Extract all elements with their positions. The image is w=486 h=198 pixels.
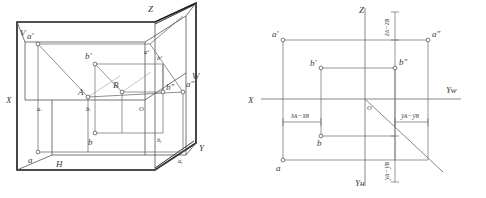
marker-A: [86, 95, 90, 99]
label-a-front: a': [272, 29, 280, 39]
label-b-top: b: [317, 138, 322, 148]
marker-a-top: [36, 150, 40, 154]
dimension-dy-bottom: yᴀ−yʙ: [382, 161, 391, 181]
label-axis-z: Z: [359, 5, 365, 15]
vertex-markers: [36, 42, 185, 154]
marker-a-front: [281, 38, 285, 42]
label-axis-x: X: [5, 95, 12, 105]
pictorial-projection-diagram: V H W X Y Z O a' a a″ aᶻ aₓ aᵧ A b' b b″…: [0, 0, 243, 198]
A-to-a-side: [88, 92, 183, 97]
label-origin: O: [367, 104, 372, 111]
h-bevel-left: [17, 155, 52, 170]
dimension-dx: xᴀ−xʙ: [290, 111, 310, 120]
label-plane-h: H: [55, 159, 63, 169]
label-b-z: bᶻ: [157, 54, 162, 61]
marker-a-side: [181, 90, 185, 94]
label-plane-v: V: [20, 28, 27, 38]
label-axis-x: X: [247, 95, 254, 105]
label-b-top: b: [88, 137, 93, 147]
label-a-side: a″: [432, 29, 441, 39]
axes-group: [261, 8, 461, 186]
marker-a-front: [36, 42, 40, 46]
label-b-side: b″: [166, 82, 175, 92]
dimension-ticks: [283, 12, 428, 182]
bisector-45-line: [365, 99, 443, 172]
label-axis-yw: Yᴡ: [446, 85, 457, 95]
marker-b-top: [93, 131, 97, 135]
axis-y-edge: [155, 143, 196, 170]
figure-root: V H W X Y Z O a' a a″ aᶻ aₓ aᵧ A b' b b″…: [0, 0, 486, 198]
label-a-top: a: [28, 155, 33, 165]
label-axis-y: Y: [199, 143, 205, 153]
marker-a-side: [426, 38, 430, 42]
label-B: B: [113, 80, 119, 90]
dimension-dy-right: yᴀ−yʙ: [400, 111, 420, 120]
auxiliary-projectors: [88, 72, 151, 97]
marker-b-side: [393, 66, 397, 70]
label-b-front: b': [310, 58, 318, 68]
point-b-construction: [283, 68, 395, 136]
label-a-side: a″: [186, 79, 195, 89]
marker-a-top: [281, 158, 285, 162]
label-a-y: aᵧ: [178, 157, 183, 164]
label-a-front: a': [27, 31, 35, 41]
label-axis-yh: Yʜ: [355, 178, 365, 188]
label-origin: O: [139, 105, 144, 112]
label-a-z: aᶻ: [144, 48, 149, 55]
marker-b-front: [319, 66, 323, 70]
label-b-side: b″: [399, 57, 408, 67]
label-a-top: a: [276, 163, 281, 173]
label-a-x: aₓ: [37, 105, 42, 112]
aux-diag-1: [122, 72, 151, 92]
marker-B: [120, 90, 124, 94]
label-b-y: bᵧ: [157, 136, 162, 143]
z-to-corner: [145, 16, 186, 42]
orthographic-projection-diagram: X Z Yᴡ Yʜ O a' a″ a b' b″ b xᴀ−xʙ yᴀ−yʙ …: [243, 0, 486, 198]
point-b-construction: [95, 64, 163, 133]
label-b-x: bₓ: [86, 105, 91, 112]
label-b-front: b': [85, 51, 93, 61]
vertex-markers: [281, 38, 430, 162]
point-a-construction: [38, 16, 183, 152]
label-axis-z: Z: [148, 4, 154, 14]
label-A: A: [77, 87, 84, 97]
marker-b-side: [161, 90, 165, 94]
marker-b-front: [93, 62, 97, 66]
dimension-dz: zᴀ−zʙ: [382, 18, 391, 37]
